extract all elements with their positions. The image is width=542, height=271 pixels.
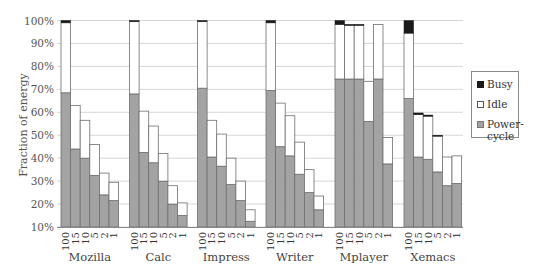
bar-idle	[452, 156, 462, 184]
legend-item-busy: Busy	[477, 78, 518, 98]
bar-power-cycle	[158, 181, 168, 227]
bar-idle	[90, 144, 100, 175]
bar-idle	[364, 81, 374, 121]
bar-idle	[61, 23, 71, 93]
bar-idle	[246, 210, 256, 221]
bar-idle	[71, 105, 81, 149]
bar-busy	[404, 21, 414, 34]
bar-power-cycle	[217, 166, 227, 227]
bar-group-mplayer	[335, 21, 393, 228]
bars	[61, 21, 462, 228]
y-tick-label: 10%	[31, 221, 54, 233]
bar-idle	[217, 134, 227, 166]
bar-power-cycle	[452, 183, 462, 227]
y-tick-label: 30%	[31, 175, 54, 187]
bar-power-cycle	[71, 149, 81, 227]
bar-busy	[61, 21, 71, 23]
bar-idle	[198, 22, 208, 89]
bar-power-cycle	[295, 174, 305, 227]
bar-busy	[130, 21, 140, 22]
bar-power-cycle	[139, 152, 149, 227]
bar-busy	[266, 21, 276, 23]
bar-idle	[423, 116, 433, 159]
bar-idle	[285, 116, 295, 156]
bar-power-cycle	[246, 221, 256, 227]
idle-swatch-icon	[477, 101, 484, 108]
bar-idle	[383, 138, 393, 164]
group-label: Xemacs	[410, 250, 455, 264]
y-tick-label: 50%	[31, 129, 54, 141]
bar-idle	[345, 25, 355, 79]
bar-power-cycle	[285, 156, 295, 227]
bar-power-cycle	[414, 157, 424, 227]
bar-power-cycle	[442, 186, 452, 227]
bar-idle	[404, 33, 414, 98]
bar-busy	[335, 21, 345, 25]
bar-power-cycle	[99, 195, 109, 227]
y-tick-label: 100%	[24, 15, 54, 27]
bar-busy	[414, 113, 424, 115]
bar-power-cycle	[423, 159, 433, 227]
bar-power-cycle	[236, 201, 246, 227]
bar-idle	[178, 203, 188, 216]
bar-group-impress	[198, 21, 256, 228]
bar-power-cycle	[345, 79, 355, 227]
bar-power-cycle	[90, 175, 100, 227]
busy-swatch-icon	[477, 81, 484, 88]
y-tick-label: 20%	[31, 198, 54, 210]
bar-power-cycle	[198, 88, 208, 227]
bar-group-writer	[266, 21, 324, 228]
x-tick-label: 1	[382, 232, 393, 238]
bar-idle	[266, 23, 276, 91]
bar-group-xemacs	[404, 21, 462, 228]
bar-power-cycle	[383, 164, 393, 227]
bar-idle	[433, 136, 443, 172]
bar-idle	[373, 24, 383, 79]
group-label: Impress	[203, 250, 250, 264]
x-tick-label: 1	[177, 232, 188, 238]
bar-idle	[149, 126, 159, 163]
bar-idle	[130, 22, 140, 94]
bar-idle	[139, 111, 149, 152]
y-tick-label: 60%	[31, 106, 54, 118]
bar-power-cycle	[149, 163, 159, 227]
x-tick-label: 1	[245, 232, 256, 238]
x-tick-label: 1	[313, 232, 324, 238]
bar-power-cycle	[168, 204, 178, 227]
bar-power-cycle	[109, 201, 119, 227]
bar-idle	[226, 158, 236, 184]
bar-power-cycle	[364, 121, 374, 227]
group-label: Mplayer	[340, 250, 389, 264]
group-label: Mozilla	[68, 250, 111, 264]
legend-item-idle: Idle	[477, 98, 518, 118]
y-tick-label: 40%	[31, 152, 54, 164]
group-labels: MozillaCalcImpressWriterMplayerXemacs	[68, 250, 455, 264]
bar-power-cycle	[404, 99, 414, 227]
bar-idle	[109, 182, 119, 200]
bar-busy	[345, 24, 355, 25]
bar-idle	[354, 25, 364, 79]
bar-idle	[207, 120, 217, 157]
bar-power-cycle	[61, 93, 71, 227]
bar-power-cycle	[354, 79, 364, 227]
y-tick-label: 80%	[31, 60, 54, 72]
bar-idle	[168, 186, 178, 204]
bar-idle	[295, 142, 305, 174]
bar-idle	[80, 120, 90, 158]
bar-power-cycle	[314, 210, 324, 227]
y-tick-label: 90%	[31, 37, 54, 49]
bar-busy	[433, 135, 443, 136]
bar-idle	[304, 170, 314, 193]
bar-idle	[158, 154, 168, 182]
bar-idle	[276, 103, 286, 147]
group-label: Calc	[145, 250, 171, 264]
bar-power-cycle	[276, 147, 286, 227]
power-cycle-swatch-icon	[477, 121, 484, 128]
bar-busy	[354, 24, 364, 25]
bar-power-cycle	[226, 185, 236, 227]
bar-power-cycle	[130, 94, 140, 227]
bar-power-cycle	[304, 193, 314, 227]
bar-idle	[314, 196, 324, 210]
x-tick-label: 1	[451, 232, 462, 238]
bar-busy	[198, 21, 208, 22]
